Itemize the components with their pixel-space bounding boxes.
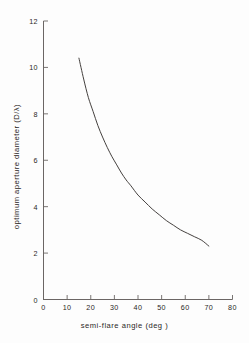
y-tick-label: 6 [8,156,38,165]
data-curve-optimum-aperture [79,58,209,246]
y-axis-label-container: optimum aperture diameter (D/λ) [0,0,18,343]
x-axis-ticks [44,295,233,300]
x-axis-label: semi-flare angle (deg ) [0,321,249,330]
y-tick-label: 0 [8,295,38,304]
y-tick-label: 4 [8,202,38,211]
x-tick-label: 60 [181,303,190,312]
y-axis-ticks [44,21,49,300]
x-tick-label: 70 [204,303,213,312]
x-tick-label: 10 [63,303,72,312]
x-tick-label: 30 [110,303,119,312]
chart-plot-area [0,0,249,343]
y-tick-label: 8 [8,109,38,118]
x-tick-label: 50 [157,303,166,312]
y-tick-label: 2 [8,249,38,258]
y-axis-label: optimum aperture diameter (D/λ) [12,17,21,317]
y-tick-label: 10 [8,63,38,72]
x-tick-label: 20 [86,303,95,312]
x-tick-label: 40 [134,303,143,312]
x-tick-label: 80 [228,303,237,312]
x-tick-label: 0 [41,303,45,312]
y-tick-label: 12 [8,17,38,26]
figure-canvas: optimum aperture diameter (D/λ) semi-fla… [0,0,249,343]
